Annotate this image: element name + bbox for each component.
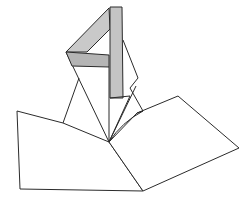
folded-paper-diagram (0, 0, 250, 210)
diagonal-strip (66, 8, 110, 52)
horizontal-strip (66, 52, 109, 67)
vertical-strip (110, 7, 123, 98)
